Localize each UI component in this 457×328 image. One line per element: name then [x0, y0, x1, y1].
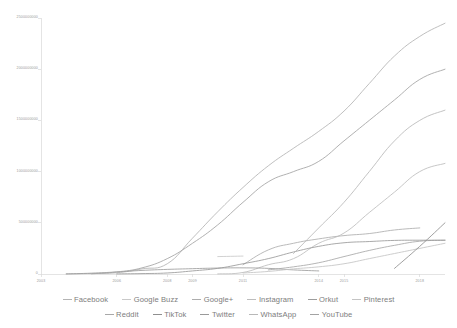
plot-area	[41, 18, 445, 274]
legend-item-label: Google Buzz	[134, 296, 179, 304]
x-axis-tick-label: 2014	[314, 280, 323, 284]
y-axis-tick-label: 1000000000	[17, 170, 39, 174]
legend-item-instagram[interactable]: Instagram	[247, 296, 293, 304]
legend-line-swatch-icon	[249, 314, 258, 315]
series-line-whatsapp	[294, 110, 446, 253]
legend-line-swatch-icon	[352, 299, 361, 300]
series-line-google-	[243, 228, 420, 265]
series-line-google-buzz	[218, 256, 243, 257]
legend-line-swatch-icon	[308, 299, 317, 300]
legend-line-swatch-icon	[153, 314, 162, 315]
y-axis-tick-labels: 0500000000100000000015000000002000000000…	[0, 0, 38, 292]
legend-line-swatch-icon	[192, 299, 201, 300]
y-axis-tick-label: 500000000	[19, 221, 38, 225]
series-line-youtube	[92, 69, 446, 274]
x-axis-tick-label: 2009	[188, 280, 197, 284]
x-axis-tick-labels: 20032006200820092011201420152018	[41, 280, 445, 290]
legend-item-tiktok[interactable]: TikTok	[153, 311, 187, 319]
legend-item-label: Pinterest	[364, 296, 395, 304]
legend-item-google-buzz[interactable]: Google Buzz	[122, 296, 178, 304]
legend-item-label: Twitter	[212, 311, 235, 319]
social-media-users-line-chart: 0500000000100000000015000000002000000000…	[0, 0, 457, 328]
legend-line-swatch-icon	[105, 314, 114, 315]
legend-item-pinterest[interactable]: Pinterest	[352, 296, 394, 304]
y-axis-tick-label: 2500000000	[17, 16, 39, 20]
legend-item-facebook[interactable]: Facebook	[63, 296, 109, 304]
legend-item-label: Reddit	[116, 311, 139, 319]
x-axis-tick-label: 2011	[239, 280, 247, 284]
legend-row-primary: FacebookGoogle BuzzGoogle+InstagramOrkut…	[0, 292, 457, 307]
legend-item-label: Orkut	[319, 296, 338, 304]
legend-item-label: Facebook	[74, 296, 108, 304]
x-axis-tick-label: 2008	[163, 280, 172, 284]
x-axis-tick-label: 2003	[37, 280, 46, 284]
chart-legend: FacebookGoogle BuzzGoogle+InstagramOrkut…	[0, 292, 457, 328]
legend-item-label: WhatsApp	[261, 311, 297, 319]
legend-item-label: Instagram	[259, 296, 294, 304]
y-axis-tick-label: 0	[36, 272, 38, 276]
y-axis-tick-label: 1500000000	[17, 119, 39, 123]
y-axis-tick-label: 2000000000	[17, 67, 39, 71]
legend-item-twitter[interactable]: Twitter	[200, 311, 235, 319]
plot-svg	[41, 18, 445, 274]
legend-item-label: TikTok	[164, 311, 186, 319]
legend-item-whatsapp[interactable]: WhatsApp	[249, 311, 296, 319]
legend-line-swatch-icon	[310, 314, 319, 315]
legend-item-label: YouTube	[322, 311, 353, 319]
legend-item-label: Google+	[204, 296, 234, 304]
series-line-reddit	[268, 240, 445, 270]
x-axis-tick-label: 2015	[340, 280, 349, 284]
legend-item-youtube[interactable]: YouTube	[310, 311, 352, 319]
legend-line-swatch-icon	[122, 299, 131, 300]
legend-item-orkut[interactable]: Orkut	[308, 296, 339, 304]
legend-line-swatch-icon	[200, 314, 209, 315]
x-axis-tick-label: 2006	[112, 280, 121, 284]
legend-line-swatch-icon	[247, 299, 256, 300]
legend-item-reddit[interactable]: Reddit	[105, 311, 139, 319]
legend-item-google-[interactable]: Google+	[192, 296, 233, 304]
legend-row-secondary: RedditTikTokTwitterWhatsAppYouTube	[0, 307, 457, 322]
legend-line-swatch-icon	[63, 299, 72, 300]
series-line-facebook	[66, 23, 445, 274]
x-axis-tick-label: 2018	[415, 280, 424, 284]
